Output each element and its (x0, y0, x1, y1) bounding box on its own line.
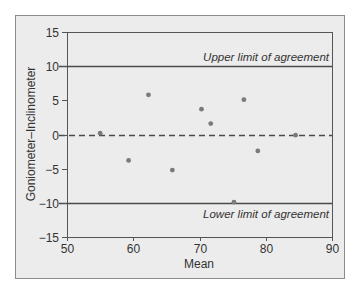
data-point (255, 149, 260, 154)
x-tick-label: 60 (127, 242, 141, 256)
y-tick-label: −5 (45, 163, 59, 177)
y-tick-label: −10 (39, 197, 60, 211)
y-tick-label: 15 (46, 26, 60, 40)
data-point (199, 107, 204, 112)
upper-limit-label: Upper limit of agreement (203, 51, 330, 63)
x-tick-label: 50 (61, 242, 75, 256)
x-tick-label: 70 (194, 242, 208, 256)
data-point (293, 133, 298, 138)
data-point (126, 158, 131, 163)
data-point (208, 121, 213, 126)
y-tick-label: −15 (39, 231, 60, 245)
data-point (170, 168, 175, 173)
x-tick-label: 80 (260, 242, 274, 256)
lower-limit-label: Lower limit of agreement (203, 208, 330, 220)
y-tick-label: 0 (52, 129, 59, 143)
y-axis-title: Goniometer–Inclinometer (24, 67, 38, 202)
bland-altman-chart: Upper limit of agreementLower limit of a… (0, 0, 359, 294)
y-tick-label: 10 (46, 60, 60, 74)
x-axis-title: Mean (184, 257, 214, 271)
data-point (241, 97, 246, 102)
data-point (232, 200, 237, 205)
data-point (146, 92, 151, 97)
y-tick-label: 5 (52, 94, 59, 108)
x-tick-label: 90 (326, 242, 340, 256)
data-point (98, 131, 103, 136)
